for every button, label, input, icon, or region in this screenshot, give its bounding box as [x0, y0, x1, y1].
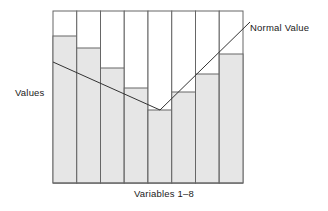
bar-fill-7: [196, 74, 220, 183]
bar-fill-6: [172, 92, 196, 183]
bar-column-6[interactable]: [172, 11, 196, 183]
x-axis-label: Variables 1–8: [0, 188, 328, 199]
bar-column-2[interactable]: [77, 11, 101, 183]
bar-fill-2: [77, 48, 101, 183]
y-axis-label: Values: [15, 87, 45, 98]
bar-fill-1: [53, 36, 77, 183]
bars-group: [53, 11, 243, 183]
bar-column-1[interactable]: [53, 11, 77, 183]
bar-column-5[interactable]: [148, 11, 172, 183]
bar-fill-4: [124, 88, 148, 183]
bar-fill-8: [219, 54, 243, 183]
bar-column-7[interactable]: [196, 11, 220, 183]
bar-column-8[interactable]: [219, 11, 243, 183]
normal-value-annotation-label: Normal Value: [250, 22, 309, 33]
bar-column-4[interactable]: [124, 11, 148, 183]
bar-fill-5: [148, 110, 172, 183]
bar-column-3[interactable]: [101, 11, 125, 183]
chart-figure: Values Variables 1–8 Normal Value: [0, 0, 328, 211]
